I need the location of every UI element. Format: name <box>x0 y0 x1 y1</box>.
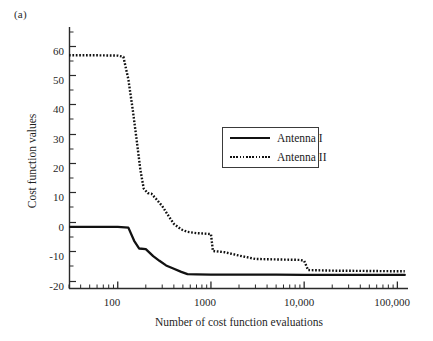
legend-item-antenna-i: Antenna I <box>223 128 318 147</box>
legend-swatch-dotted-icon <box>230 152 270 162</box>
legend-swatch-solid-icon <box>230 133 270 143</box>
series-line-antenna-i <box>69 227 405 275</box>
legend: Antenna I Antenna II <box>222 127 319 168</box>
legend-label: Antenna I <box>277 132 323 144</box>
plot-area <box>0 0 433 341</box>
y-major-ticks <box>70 47 77 282</box>
legend-item-antenna-ii: Antenna II <box>223 147 318 166</box>
legend-label: Antenna II <box>277 151 327 163</box>
x-ticks <box>69 282 397 289</box>
figure-panel-a: (a) Cost function values Number of cost … <box>0 0 433 341</box>
